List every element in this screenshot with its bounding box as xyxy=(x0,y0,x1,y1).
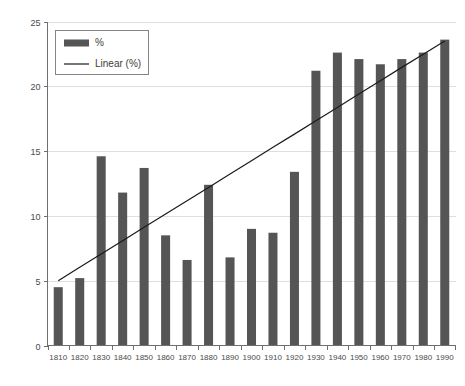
x-tick-label-1860: 1860 xyxy=(157,353,175,362)
bar-1920 xyxy=(290,172,299,346)
x-tick-label-1900: 1900 xyxy=(243,353,261,362)
x-tick-label-1960: 1960 xyxy=(371,353,389,362)
bar-1900 xyxy=(247,229,256,346)
x-tick-label-1940: 1940 xyxy=(328,353,346,362)
x-axis-group: 1810182018301840185018601870188018901900… xyxy=(48,346,456,362)
x-tick-label-1820: 1820 xyxy=(71,353,89,362)
x-tick-label-1990: 1990 xyxy=(436,353,454,362)
y-tick-label: 25 xyxy=(30,18,40,28)
bar-1950 xyxy=(354,59,363,345)
bar-1870 xyxy=(183,260,192,346)
y-tick-label: 10 xyxy=(30,212,40,222)
bar-1940 xyxy=(333,53,342,346)
x-tick-label-1970: 1970 xyxy=(393,353,411,362)
bar-chart-svg: 0510152025 18101820183018401850186018701… xyxy=(0,0,465,386)
y-axis-group: 0510152025 xyxy=(30,18,47,352)
bar-1850 xyxy=(140,168,149,346)
y-tick-label: 15 xyxy=(30,147,40,157)
x-tick-label-1880: 1880 xyxy=(200,353,218,362)
bar-1830 xyxy=(97,156,106,345)
y-tick-label: 20 xyxy=(30,82,40,92)
x-tick-label-1830: 1830 xyxy=(92,353,110,362)
chart-legend: %Linear (%) xyxy=(56,31,149,75)
x-tick-label-1920: 1920 xyxy=(286,353,304,362)
bar-1990 xyxy=(440,40,449,346)
bar-1810 xyxy=(54,287,63,345)
x-tick-label-1810: 1810 xyxy=(49,353,67,362)
x-tick-label-1890: 1890 xyxy=(221,353,239,362)
x-tick-label-1930: 1930 xyxy=(307,353,325,362)
bar-1960 xyxy=(376,64,385,345)
x-tick-label-1910: 1910 xyxy=(264,353,282,362)
x-tick-label-1870: 1870 xyxy=(178,353,196,362)
bar-1890 xyxy=(226,257,235,345)
x-tick-label-1980: 1980 xyxy=(414,353,432,362)
legend-label-2: Linear (%) xyxy=(95,58,141,69)
x-tick-label-1840: 1840 xyxy=(114,353,132,362)
x-tick-label-1950: 1950 xyxy=(350,353,368,362)
y-tick-label: 0 xyxy=(35,342,40,352)
bar-1820 xyxy=(75,278,84,345)
bar-1970 xyxy=(397,59,406,345)
y-tick-label: 5 xyxy=(35,277,40,287)
chart-container: 0510152025 18101820183018401850186018701… xyxy=(0,0,465,386)
bars-group xyxy=(54,40,450,346)
legend-swatch-bar xyxy=(64,40,89,47)
bar-1880 xyxy=(204,185,213,346)
x-tick-label-1850: 1850 xyxy=(135,353,153,362)
bar-1930 xyxy=(311,71,320,346)
bar-1860 xyxy=(161,235,170,345)
bar-1840 xyxy=(118,193,127,346)
bar-1910 xyxy=(268,233,277,346)
legend-label-1: % xyxy=(95,37,104,48)
bar-1980 xyxy=(419,53,428,346)
